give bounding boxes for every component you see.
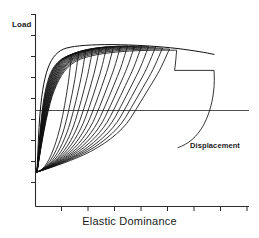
x-axis-label: Elastic Dominance	[0, 215, 259, 227]
y-axis-label: Load	[12, 20, 32, 29]
axes-group	[31, 14, 249, 211]
hysteresis-chart-figure: Load Displacement Elastic Dominance	[0, 0, 259, 238]
y-axis-ticks	[31, 15, 36, 183]
hysteresis-loops-group	[37, 46, 214, 172]
hysteresis-loop	[37, 47, 149, 172]
x-axis-ticks	[62, 207, 248, 212]
displacement-annotation-label: Displacement	[190, 141, 240, 150]
chart-canvas	[0, 0, 259, 238]
